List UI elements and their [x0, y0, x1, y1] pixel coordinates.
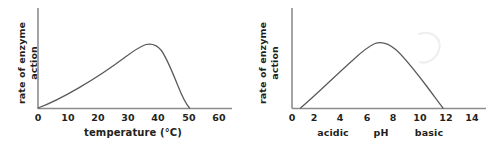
x-axis-label-ph: pH — [374, 127, 389, 138]
x-tick-label-20: 20 — [91, 112, 104, 123]
x-tick-label-30: 30 — [121, 112, 134, 123]
ph-tick-label-10: 10 — [413, 112, 426, 123]
cropped-caption-remnant — [0, 142, 243, 149]
ph-tick-label-0: 0 — [289, 112, 296, 123]
ph-tick-label-2: 2 — [311, 112, 318, 123]
ph-tick-label-4: 4 — [337, 112, 344, 123]
x-tick-label-10: 10 — [61, 112, 74, 123]
chart-panel-temperature: rate of enzyme action 0 10 20 30 40 50 6… — [0, 0, 243, 149]
x-tick-label-60: 60 — [212, 112, 225, 123]
enzyme-activity-figure: rate of enzyme action 0 10 20 30 40 50 6… — [0, 0, 486, 149]
enzyme-rate-curve-temperature — [38, 44, 190, 108]
region-label-acidic: acidic — [317, 127, 349, 138]
enzyme-rate-curve-ph — [301, 43, 444, 108]
chart-panel-ph: rate of enzyme action 0 2 4 6 8 10 12 14… — [243, 0, 486, 149]
x-axis-label-temperature: temperature (°C) — [84, 127, 182, 138]
scan-smudge-artifact — [419, 33, 440, 62]
ph-tick-label-8: 8 — [390, 112, 397, 123]
x-tick-label-0: 0 — [35, 112, 42, 123]
region-label-basic: basic — [415, 127, 443, 138]
x-tick-label-40: 40 — [151, 112, 164, 123]
x-tick-label-50: 50 — [182, 112, 195, 123]
ph-tick-label-6: 6 — [364, 112, 371, 123]
plot-area-ph — [243, 0, 486, 149]
ph-tick-label-12: 12 — [439, 112, 452, 123]
ph-tick-label-14: 14 — [465, 112, 478, 123]
